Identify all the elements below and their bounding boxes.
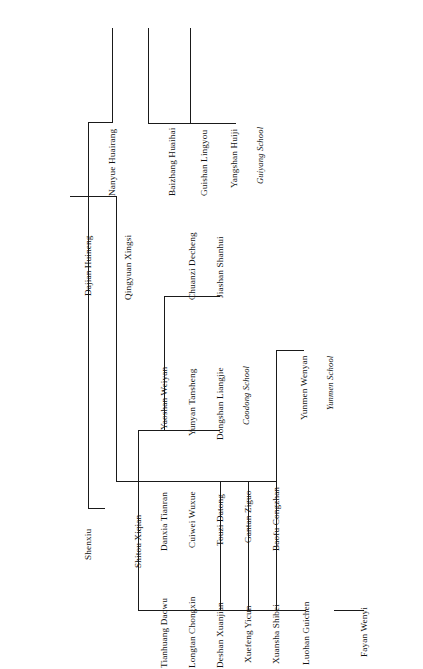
edge-yangshan-link <box>204 123 236 124</box>
node-baofu-congzhan[interactable]: Baofu Congzhan <box>272 487 281 551</box>
edge-guishan-up <box>190 28 191 124</box>
node-baizhang-huaihai[interactable]: Baizhang Huaihai <box>168 128 177 196</box>
node-longtan-chongxin[interactable]: Longtan Chongxin <box>188 596 197 668</box>
edge-guishan-link <box>172 123 204 124</box>
edge-baofu-link <box>248 481 276 482</box>
node-dajian-huineng[interactable]: Dajian Huineng <box>84 235 93 296</box>
node-shenxiu[interactable]: Shenxiu <box>84 529 93 560</box>
edge-gantan-link <box>220 481 248 482</box>
edge-shitou-link <box>116 481 138 482</box>
edge-nanyue-link <box>88 122 112 123</box>
node-luohan-guichen[interactable]: Luohan Guichen <box>302 601 311 665</box>
node-fayan-wenyi[interactable]: Fayan Wenyi <box>360 607 369 657</box>
node-yunmen-wenyan[interactable]: Yunmen Wenyan <box>300 355 309 420</box>
node-chuanzi-decheng[interactable]: Chuanzi Decheng <box>188 232 197 300</box>
edge-yunmen-link <box>276 350 304 351</box>
node-touzi-datong[interactable]: Touzi Datong <box>216 494 225 546</box>
node-deshan-xuanjian[interactable]: Deshan Xuanjian <box>216 602 225 668</box>
edge-nanyue-up <box>112 28 113 123</box>
node-tianhuang-daowu[interactable]: Tianhuang Daowu <box>160 598 169 668</box>
node-yunyan-tansheng[interactable]: Yunyan Tansheng <box>188 368 197 436</box>
node-yaoshan-weiyan[interactable]: Yaoshan Weiyan <box>160 367 169 430</box>
lineage-diagram: Dajian Huineng Shenxiu Nanyue Huairang Q… <box>0 0 423 669</box>
node-xuansha-shibei[interactable]: Xuansha Shibei <box>272 604 281 664</box>
node-xuefeng-yicun[interactable]: Xuefeng Yicun <box>244 606 253 663</box>
edge-yunmen-riser <box>276 350 277 611</box>
edge-yaoshan-link <box>138 430 164 431</box>
node-gantan-ziguo[interactable]: Gantan Ziguo <box>244 490 253 543</box>
node-guishan-lingyou[interactable]: Guishan Lingyou <box>200 130 209 196</box>
edge-nanyue-riser <box>88 122 89 197</box>
node-nanyue-huairang[interactable]: Nanyue Huairang <box>108 129 117 196</box>
node-yunmen-school: Yunmen School <box>326 356 335 410</box>
edge-huineng-stub <box>70 196 89 197</box>
edge-qingyuan-down <box>116 196 117 481</box>
edge-huineng-to-shenxiu <box>88 508 105 509</box>
node-danxia-tianran[interactable]: Danxia Tianran <box>160 492 169 551</box>
node-shitou-xiqian[interactable]: Shitou Xiqian <box>134 515 143 568</box>
edge-danxia-link <box>138 481 164 482</box>
node-jiashan-shanhui[interactable]: Jiashan Shanhui <box>216 236 225 298</box>
edge-cuiwei-link <box>164 481 192 482</box>
edge-baizhang-up <box>148 28 149 124</box>
node-caodong-school: Caodong School <box>242 366 251 425</box>
edge-qingyuan-link <box>88 196 116 197</box>
node-dongshan-liangjie[interactable]: Dongshan Liangjie <box>216 367 225 440</box>
node-yangshan-huiji[interactable]: Yangshan Huiji <box>230 129 239 188</box>
node-guiyang-school: Guiyang School <box>256 127 265 184</box>
node-cuiwei-wuxue[interactable]: Cuiwei Wuxue <box>188 491 197 548</box>
node-qingyuan-xingsi[interactable]: Qingyuan Xingsi <box>124 235 133 300</box>
edge-baizhang-link <box>148 123 172 124</box>
edge-touzi-link <box>192 481 220 482</box>
